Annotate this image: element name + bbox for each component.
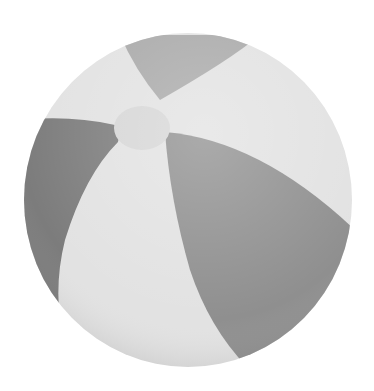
- beach-ball: [0, 0, 374, 391]
- beach-ball-image: [0, 0, 374, 391]
